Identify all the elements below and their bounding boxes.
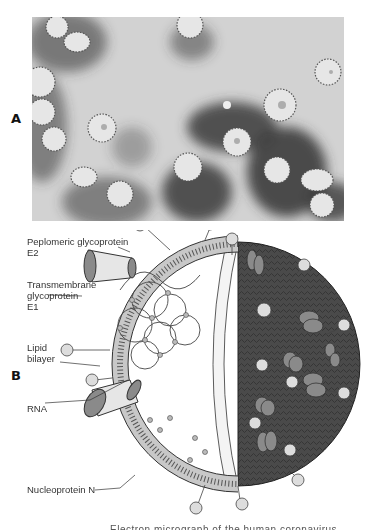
electron-micrograph [32,17,344,221]
label-peplomeric-glycoprotein-e2: Peplomeric glycoprotein E2 [27,236,128,258]
panel-label-a: A [11,111,21,126]
label-lipid-bilayer: Lipid bilayer [27,342,55,364]
figure-caption-truncated: Electron micrograph of the human coronav… [110,522,337,530]
virion-diagram [0,230,371,520]
label-rna: RNA [27,403,47,414]
label-nucleoprotein-n: Nucleoprotein N [27,484,95,495]
label-transmembrane-glycoprotein-e1: Transmembrane glycoprotein E1 [27,279,96,312]
